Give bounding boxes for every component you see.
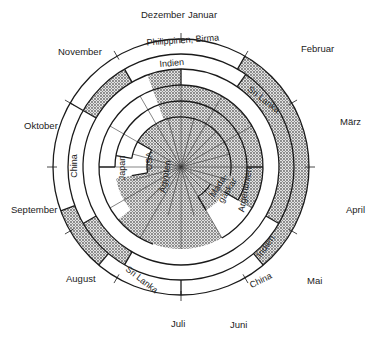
month-januar: Januar [188,9,217,20]
month-maerz: März [340,116,361,127]
month-februar: Februar [301,43,334,54]
month-september: September [11,204,57,215]
month-april: April [346,204,365,215]
month-mai: Mai [307,275,322,286]
month-november: November [58,46,102,57]
label-sri-lanka-lower: Sri Lanka [124,264,160,295]
month-august: August [66,273,96,284]
label-japan: Japan [117,156,127,181]
label-china-left: China [69,154,79,178]
label-indien-top: Indien [159,57,184,69]
month-oktober: Oktober [24,120,58,131]
month-juli: Juli [171,318,185,329]
label-usa: USA [144,152,154,171]
label-philippinen-birma: Philippinen, Birma [146,32,219,47]
month-juni: Juni [230,319,247,330]
harvest-calendar-diagram: Januar Februar März April Mai Juni Juli … [0,0,375,337]
month-dezember: Dezember [141,9,185,20]
